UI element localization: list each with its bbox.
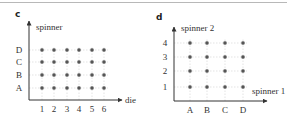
outcome-dot	[102, 86, 105, 89]
outcome-dot	[40, 48, 43, 51]
outcome-dot	[102, 60, 105, 63]
outcome-dot	[241, 41, 244, 44]
sample-space-diagrams: c spinner die ABCD 123456 d spinner 2 sp…	[0, 0, 296, 123]
outcome-dot	[90, 73, 93, 76]
panel-d-x-axis-label: spinner 1	[252, 86, 285, 96]
outcome-dot	[65, 60, 68, 63]
panel-c-label: c	[15, 9, 20, 19]
x-tick-label: 4	[77, 104, 82, 114]
panel-c-x-axis-label: die	[125, 95, 136, 105]
y-tick-label: 4	[163, 38, 168, 48]
outcome-dot	[65, 48, 68, 51]
outcome-dot	[205, 41, 208, 44]
outcome-dot	[77, 86, 80, 89]
outcome-dot	[102, 73, 105, 76]
outcome-dot	[241, 55, 244, 58]
outcome-dot	[77, 73, 80, 76]
outcome-dot	[52, 73, 55, 76]
y-tick-label: C	[16, 57, 22, 67]
panel-c-outcome-dots	[40, 48, 105, 89]
x-tick-label: 6	[102, 104, 107, 114]
outcome-dot	[90, 86, 93, 89]
outcome-dot	[40, 73, 43, 76]
outcome-dot	[223, 69, 226, 72]
x-tick-label: B	[204, 105, 210, 115]
outcome-dot	[90, 60, 93, 63]
outcome-dot	[52, 60, 55, 63]
x-tick-label: 1	[40, 104, 45, 114]
outcome-dot	[52, 48, 55, 51]
outcome-dot	[223, 85, 226, 88]
panel-d-gridlines	[174, 39, 247, 101]
outcome-dot	[102, 48, 105, 51]
x-tick-label: 3	[65, 104, 70, 114]
y-tick-label: A	[16, 83, 23, 93]
outcome-dot	[52, 86, 55, 89]
x-tick-label: A	[187, 105, 194, 115]
panel-c-y-axis-label: spinner	[36, 22, 63, 32]
y-tick-label: B	[16, 70, 22, 80]
outcome-dot	[205, 69, 208, 72]
panel-d-x-ticks: ABCD	[187, 105, 247, 115]
outcome-dot	[40, 60, 43, 63]
outcome-dot	[40, 86, 43, 89]
y-tick-label: D	[16, 45, 23, 55]
outcome-dot	[65, 86, 68, 89]
outcome-dot	[241, 69, 244, 72]
outcome-dot	[188, 69, 191, 72]
outcome-dot	[65, 73, 68, 76]
panel-d-label: d	[156, 12, 162, 22]
outcome-dot	[223, 41, 226, 44]
outcome-dot	[188, 55, 191, 58]
x-tick-label: D	[240, 105, 247, 115]
y-tick-label: 2	[163, 66, 168, 76]
panel-c-gridlines	[29, 46, 108, 100]
panel-d: d spinner 2 spinner 1 1234 ABCD	[156, 12, 285, 115]
panel-d-y-ticks: 1234	[163, 38, 168, 92]
panel-c-x-ticks: 123456	[40, 104, 107, 114]
outcome-dot	[77, 48, 80, 51]
x-tick-label: 2	[52, 104, 57, 114]
y-tick-label: 3	[163, 52, 168, 62]
outcome-dot	[188, 85, 191, 88]
outcome-dot	[241, 85, 244, 88]
outcome-dot	[205, 55, 208, 58]
outcome-dot	[205, 85, 208, 88]
panel-c-y-ticks: ABCD	[16, 45, 23, 93]
x-tick-label: 5	[90, 104, 95, 114]
panel-d-outcome-dots	[188, 41, 244, 88]
panel-d-y-axis-label: spinner 2	[181, 23, 214, 33]
outcome-dot	[90, 48, 93, 51]
x-tick-label: C	[222, 105, 228, 115]
outcome-dot	[77, 60, 80, 63]
y-tick-label: 1	[163, 82, 168, 92]
outcome-dot	[223, 55, 226, 58]
panel-c: c spinner die ABCD 123456	[15, 9, 136, 114]
outcome-dot	[188, 41, 191, 44]
